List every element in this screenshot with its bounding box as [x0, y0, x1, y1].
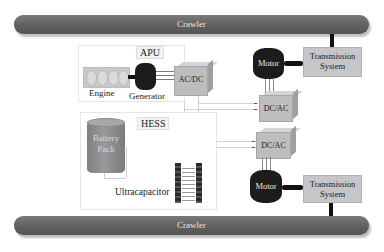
- crawler-bottom: Crawler: [14, 216, 369, 235]
- ultracapacitor-plate-right: [196, 163, 202, 203]
- motor-bottom-label: Motor: [255, 181, 276, 191]
- engine-icon: [83, 67, 130, 88]
- wire: [266, 157, 267, 170]
- arrow-marker: [252, 147, 255, 148]
- apu-title: APU: [136, 46, 164, 59]
- crawler-bottom-label: Crawler: [177, 220, 206, 230]
- dc-ac-bottom-label: DC/AC: [261, 141, 285, 150]
- wire: [184, 109, 258, 110]
- transmission-top: Transmission System: [303, 47, 362, 77]
- motor-bottom-icon: Motor: [250, 170, 282, 203]
- motor-top-shaft: [284, 61, 303, 66]
- wire: [104, 178, 126, 179]
- arrow-marker: [252, 141, 255, 142]
- ac-dc-converter: AC/DC: [174, 66, 208, 96]
- transmission-bottom: Transmission System: [303, 175, 362, 203]
- dc-ac-inverter-top: DC/AC: [259, 95, 293, 122]
- engine-label: Engine: [89, 88, 115, 98]
- wire: [156, 71, 174, 72]
- wire: [198, 103, 258, 104]
- wire: [156, 75, 174, 76]
- generator-icon: [135, 63, 156, 90]
- transmission-bottom-link: [329, 203, 333, 216]
- dc-ac-inverter-bottom: DC/AC: [256, 132, 291, 159]
- ac-dc-label: AC/DC: [179, 75, 203, 84]
- hess-title: HESS: [137, 117, 169, 130]
- motor-top-icon: Motor: [253, 48, 284, 79]
- generator-label: Generator: [129, 91, 165, 101]
- transmission-bottom-line2: System: [304, 189, 361, 199]
- ultracapacitor-icon: [182, 165, 195, 201]
- wire: [262, 157, 263, 170]
- arrow-marker: [254, 109, 257, 110]
- wire: [270, 157, 271, 170]
- ultracapacitor-plate-left: [175, 163, 181, 203]
- wire: [126, 147, 127, 178]
- arrow-marker: [254, 103, 257, 104]
- motor-top-label: Motor: [258, 58, 279, 68]
- crawler-top: Crawler: [14, 15, 369, 34]
- dc-ac-top-label: DC/AC: [264, 104, 288, 113]
- transmission-top-line1: Transmission: [304, 51, 361, 61]
- battery-pack-icon: Battery Pack: [87, 121, 125, 173]
- ultracapacitor-label: Ultracapacitor: [115, 187, 169, 197]
- battery-label-line1: Battery: [87, 133, 125, 144]
- transmission-top-line2: System: [304, 61, 361, 71]
- wire: [156, 79, 174, 80]
- crawler-top-label: Crawler: [177, 19, 206, 29]
- transmission-bottom-line1: Transmission: [304, 179, 361, 189]
- motor-bottom-shaft: [282, 185, 303, 190]
- transmission-top-link: [330, 34, 334, 47]
- battery-label-line2: Pack: [87, 144, 125, 155]
